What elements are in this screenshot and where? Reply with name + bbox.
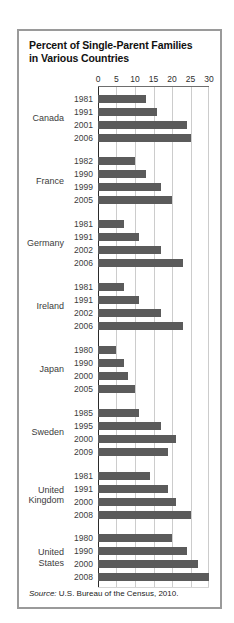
- bar-track: [98, 472, 209, 480]
- country-label: United Kingdom: [19, 469, 64, 521]
- country-rows: 1981199120022006: [64, 281, 209, 333]
- bar-row: 1990: [64, 356, 209, 369]
- country-rows: 1981199120012006: [64, 92, 209, 144]
- country-group: France1982199019992005: [19, 155, 220, 207]
- bar-row: 1991: [64, 294, 209, 307]
- country-label: Germany: [19, 218, 64, 270]
- bar-row: 2000: [64, 369, 209, 382]
- bar: [98, 121, 187, 129]
- year-label: 1981: [64, 471, 98, 481]
- bar: [98, 95, 146, 103]
- bar-track: [98, 573, 209, 581]
- x-axis-tick-labels: 051015202530: [98, 73, 209, 86]
- country-group: Japan1980199020002005: [19, 343, 220, 395]
- year-label: 1990: [64, 169, 98, 179]
- bar-row: 1981: [64, 92, 209, 105]
- year-label: 2000: [64, 434, 98, 444]
- bar-track: [98, 296, 209, 304]
- bar-row: 1991: [64, 482, 209, 495]
- bar-track: [98, 170, 209, 178]
- x-axis-tick-label: 10: [130, 74, 139, 84]
- year-label: 1999: [64, 182, 98, 192]
- country-rows: 1981199120002008: [64, 469, 209, 521]
- bar: [98, 296, 139, 304]
- bar: [98, 498, 176, 506]
- year-label: 2000: [64, 497, 98, 507]
- bar-groups: Canada1981199120012006France198219901999…: [19, 86, 220, 588]
- bar-track: [98, 183, 209, 191]
- year-label: 2005: [64, 384, 98, 394]
- bar: [98, 283, 124, 291]
- bar-row: 1980: [64, 532, 209, 545]
- bar: [98, 448, 168, 456]
- bar: [98, 573, 209, 581]
- bar-row: 2008: [64, 508, 209, 521]
- bar-row: 1985: [64, 406, 209, 419]
- bar: [98, 170, 146, 178]
- source-text: U.S. Bureau of the Census, 2010.: [57, 589, 179, 598]
- year-label: 1991: [64, 295, 98, 305]
- year-label: 2005: [64, 195, 98, 205]
- bar-row: 2000: [64, 432, 209, 445]
- x-axis-tick-label: 25: [186, 74, 195, 84]
- country-rows: 1980199020002005: [64, 343, 209, 395]
- country-rows: 1980199020002008: [64, 532, 209, 584]
- bar-row: 2000: [64, 495, 209, 508]
- country-label: France: [19, 155, 64, 207]
- bar: [98, 409, 139, 417]
- bar-track: [98, 134, 209, 142]
- x-axis-tick-label: 20: [167, 74, 176, 84]
- bar: [98, 259, 183, 267]
- bar-track: [98, 259, 209, 267]
- bar: [98, 435, 176, 443]
- bar-track: [98, 283, 209, 291]
- country-group: Ireland1981199120022006: [19, 281, 220, 333]
- bar-track: [98, 409, 209, 417]
- country-group: United States1980199020002008: [19, 532, 220, 584]
- year-label: 1981: [64, 282, 98, 292]
- country-label: Sweden: [19, 406, 64, 458]
- bar: [98, 560, 198, 568]
- year-label: 2008: [64, 572, 98, 582]
- bar-row: 2006: [64, 320, 209, 333]
- year-label: 1981: [64, 94, 98, 104]
- bar-row: 1990: [64, 168, 209, 181]
- x-axis-tick-label: 30: [204, 74, 213, 84]
- year-label: 1985: [64, 408, 98, 418]
- year-label: 2009: [64, 447, 98, 457]
- year-label: 1990: [64, 358, 98, 368]
- bar-track: [98, 534, 209, 542]
- country-label: Canada: [19, 92, 64, 144]
- bar-row: 2008: [64, 571, 209, 584]
- bar: [98, 233, 139, 241]
- bar: [98, 183, 161, 191]
- bar-track: [98, 385, 209, 393]
- bar-row: 2005: [64, 194, 209, 207]
- year-label: 2006: [64, 321, 98, 331]
- x-axis-tick-label: 0: [96, 74, 101, 84]
- bar-chart: 051015202530 Canada1981199120012006Franc…: [19, 73, 220, 588]
- year-label: 1991: [64, 107, 98, 117]
- bar-row: 1991: [64, 231, 209, 244]
- bar-track: [98, 108, 209, 116]
- bar: [98, 511, 191, 519]
- country-group: Canada1981199120012006: [19, 92, 220, 144]
- bar-track: [98, 233, 209, 241]
- year-label: 1995: [64, 421, 98, 431]
- country-label: Ireland: [19, 281, 64, 333]
- country-label: Japan: [19, 343, 64, 395]
- source-note: Source: U.S. Bureau of the Census, 2010.: [29, 589, 178, 598]
- country-rows: 1985199520002009: [64, 406, 209, 458]
- bar-row: 1990: [64, 545, 209, 558]
- bar-row: 1982: [64, 155, 209, 168]
- bar-row: 2002: [64, 307, 209, 320]
- bar: [98, 309, 161, 317]
- bar: [98, 322, 183, 330]
- year-label: 1990: [64, 546, 98, 556]
- bar: [98, 372, 128, 380]
- x-axis-tick-label: 15: [149, 74, 158, 84]
- bar-track: [98, 547, 209, 555]
- year-label: 2008: [64, 510, 98, 520]
- bar: [98, 534, 172, 542]
- bar-row: 2001: [64, 118, 209, 131]
